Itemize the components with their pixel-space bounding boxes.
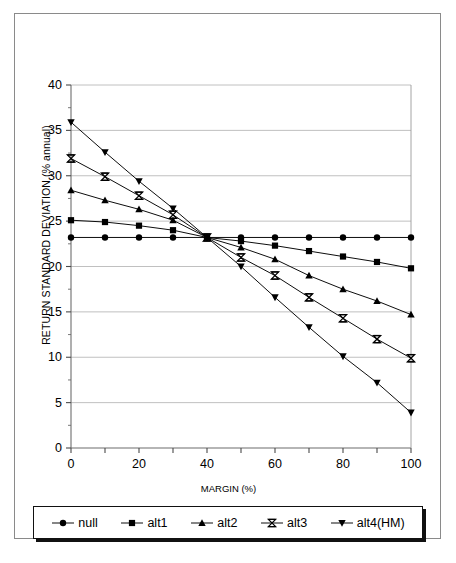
- data-point-circle: [68, 234, 74, 240]
- data-point-bowtie-x: [271, 272, 278, 279]
- series-alt4(HM): [67, 119, 414, 416]
- x-tick-label: 20: [132, 457, 146, 471]
- data-point-bowtie-x: [101, 173, 108, 180]
- data-point-square: [408, 265, 414, 271]
- data-point-bowtie-x: [237, 254, 244, 261]
- data-point-circle: [306, 234, 312, 240]
- data-point-circle: [136, 234, 142, 240]
- legend-item-alt4HM[interactable]: alt4(HM): [330, 516, 405, 530]
- data-point-circle: [170, 234, 176, 240]
- data-point-circle: [272, 234, 278, 240]
- data-point-square: [102, 219, 108, 225]
- data-point-triangle-down: [407, 410, 414, 417]
- x-tick-label: 0: [68, 457, 75, 471]
- data-point-square: [306, 248, 312, 254]
- chart-legend: nullalt1alt2alt3alt4(HM): [33, 506, 423, 539]
- legend-item-alt1[interactable]: alt1: [120, 516, 167, 530]
- data-point-bowtie-x: [305, 294, 312, 301]
- data-point-triangle-up: [339, 285, 346, 292]
- y-tick-label: 0: [55, 441, 62, 455]
- data-point-bowtie-x: [373, 336, 380, 343]
- chart-svg: 0510152025303540020406080100: [15, 14, 442, 484]
- x-tick-label: 60: [268, 457, 282, 471]
- data-point-triangle-down: [339, 353, 346, 360]
- chart-frame: 0510152025303540020406080100 RETURN STAN…: [14, 13, 441, 539]
- series-alt2: [67, 186, 414, 317]
- data-point-circle: [102, 234, 108, 240]
- data-point-circle: [340, 234, 346, 240]
- y-axis-title: RETURN STANDARD DEVIATION (% annual): [40, 110, 52, 360]
- x-tick-label: 100: [401, 457, 422, 471]
- legend-label: alt4(HM): [357, 516, 405, 530]
- legend-marker-triangle-up: [190, 517, 214, 529]
- data-point-triangle-down: [135, 178, 142, 185]
- data-point-square: [170, 227, 176, 233]
- data-point-circle: [408, 234, 414, 240]
- legend-item-null[interactable]: null: [51, 516, 97, 530]
- data-point-bowtie-x: [135, 192, 142, 199]
- legend-label: alt1: [147, 516, 167, 530]
- data-point-triangle-up: [67, 186, 74, 193]
- legend-marker-circle: [51, 517, 75, 529]
- legend-item-alt2[interactable]: alt2: [190, 516, 237, 530]
- legend-marker-square: [120, 517, 144, 529]
- data-point-square: [68, 217, 74, 223]
- legend-label: alt3: [287, 516, 307, 530]
- data-point-circle: [374, 234, 380, 240]
- series-alt3: [67, 155, 414, 362]
- y-tick-label: 5: [55, 396, 62, 410]
- data-point-square: [238, 238, 244, 244]
- legend-marker-bowtie-x: [260, 517, 284, 529]
- data-point-square: [340, 253, 346, 259]
- legend-label: alt2: [217, 516, 237, 530]
- data-point-square: [374, 259, 380, 265]
- legend-label: null: [78, 516, 97, 530]
- x-tick-label: 40: [200, 457, 214, 471]
- data-point-square: [272, 243, 278, 249]
- data-point-triangle-up: [305, 272, 312, 279]
- y-tick-label: 40: [48, 78, 62, 92]
- legend-item-alt3[interactable]: alt3: [260, 516, 307, 530]
- plot-area: 0510152025303540020406080100: [15, 14, 442, 540]
- x-tick-label: 80: [336, 457, 350, 471]
- x-axis-title: MARGIN (%): [15, 483, 442, 494]
- data-point-bowtie-x: [339, 315, 346, 322]
- data-point-square: [136, 223, 142, 229]
- data-point-circle: [60, 519, 66, 525]
- legend-marker-triangle-down: [330, 517, 354, 529]
- data-point-square: [129, 519, 135, 525]
